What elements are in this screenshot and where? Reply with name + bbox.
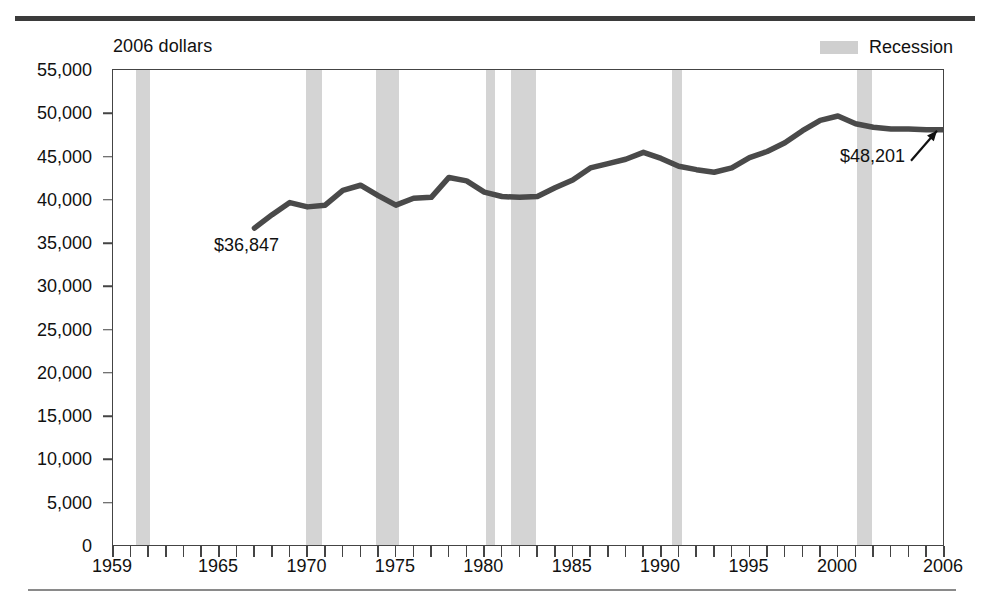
chart-figure: 2006 dollars Recession 05,00010,00015,00…	[0, 0, 986, 605]
end-value-arrow	[0, 0, 986, 605]
